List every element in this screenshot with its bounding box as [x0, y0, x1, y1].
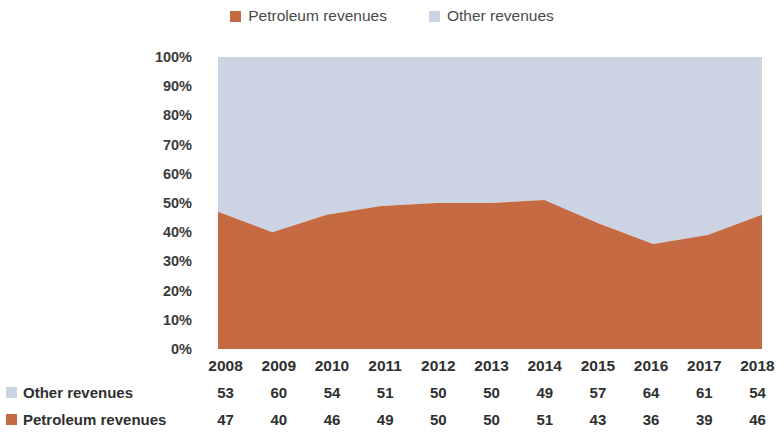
chart-data-table: 2008200920102011201220132014201520162017… — [0, 352, 784, 433]
table-row-label-petroleum: Petroleum revenues — [23, 412, 166, 427]
x-axis-tick-year: 2008 — [199, 352, 252, 379]
x-axis-tick-year: 2016 — [625, 352, 678, 379]
legend-entry-other: Other revenues — [429, 8, 554, 24]
table-cell-petroleum-value: 47 — [199, 406, 252, 433]
table-cell-other-value: 50 — [465, 379, 518, 406]
table-cell-petroleum-value: 49 — [359, 406, 412, 433]
x-axis-tick-year: 2013 — [465, 352, 518, 379]
table-cell-other-value: 51 — [359, 379, 412, 406]
legend-square-icon-other — [429, 11, 440, 22]
table-cell-petroleum-value: 43 — [571, 406, 624, 433]
table-row-years: 2008200920102011201220132014201520162017… — [0, 352, 784, 379]
table-cell-petroleum-value: 46 — [305, 406, 358, 433]
table-cell-other-value: 60 — [252, 379, 305, 406]
table-cell-other-value: 50 — [412, 379, 465, 406]
y-axis-tick: 50% — [96, 196, 192, 211]
chart-legend: Petroleum revenues Other revenues — [0, 2, 784, 30]
y-axis-tick: 90% — [96, 79, 192, 94]
x-axis-tick-year: 2009 — [252, 352, 305, 379]
table-cell-other-value: 54 — [731, 379, 784, 406]
y-axis-tick: 100% — [96, 50, 192, 65]
y-axis-tick: 40% — [96, 225, 192, 240]
table-cell-petroleum-value: 46 — [731, 406, 784, 433]
table-cell-other-value: 61 — [678, 379, 731, 406]
y-axis-tick: 80% — [96, 108, 192, 123]
table-row-header-other: Other revenues — [0, 379, 199, 406]
chart-plot-area — [218, 57, 762, 349]
x-axis-tick-year: 2015 — [571, 352, 624, 379]
table-cells-other: 5360545150504957646154 — [199, 379, 784, 406]
stacked-area-chart — [218, 57, 762, 349]
table-row-header-petroleum: Petroleum revenues — [0, 406, 199, 433]
y-axis-tick: 60% — [96, 167, 192, 182]
x-axis-tick-year: 2011 — [359, 352, 412, 379]
y-axis-tick: 70% — [96, 138, 192, 153]
table-row-label-other: Other revenues — [23, 385, 133, 400]
legend-square-icon-petroleum — [230, 11, 241, 22]
table-cell-other-value: 53 — [199, 379, 252, 406]
table-cell-other-value: 54 — [305, 379, 358, 406]
x-axis-tick-year: 2012 — [412, 352, 465, 379]
table-row-petroleum-revenues: Petroleum revenues 474046495050514336394… — [0, 406, 784, 433]
x-axis-tick-year: 2017 — [678, 352, 731, 379]
x-axis-tick-year: 2014 — [518, 352, 571, 379]
y-axis-tick: 10% — [96, 313, 192, 328]
y-axis-tick: 20% — [96, 284, 192, 299]
table-cell-petroleum-value: 39 — [678, 406, 731, 433]
legend-entry-petroleum: Petroleum revenues — [230, 8, 387, 24]
x-axis-tick-year: 2018 — [731, 352, 784, 379]
table-cell-other-value: 64 — [625, 379, 678, 406]
table-cell-petroleum-value: 40 — [252, 406, 305, 433]
table-row-other-revenues: Other revenues 5360545150504957646154 — [0, 379, 784, 406]
table-cell-petroleum-value: 51 — [518, 406, 571, 433]
table-cell-other-value: 49 — [518, 379, 571, 406]
table-cell-petroleum-value: 50 — [465, 406, 518, 433]
table-cell-petroleum-value: 36 — [625, 406, 678, 433]
table-row-header-years — [0, 352, 199, 379]
table-cells-petroleum: 4740464950505143363946 — [199, 406, 784, 433]
legend-label-petroleum: Petroleum revenues — [248, 8, 387, 24]
table-cell-petroleum-value: 50 — [412, 406, 465, 433]
legend-label-other: Other revenues — [447, 8, 554, 24]
x-axis-tick-year: 2010 — [305, 352, 358, 379]
legend-square-icon-petroleum-row — [6, 414, 17, 425]
table-cells-years: 2008200920102011201220132014201520162017… — [199, 352, 784, 379]
y-axis-tick: 30% — [96, 254, 192, 269]
legend-square-icon-other-row — [6, 387, 17, 398]
y-axis: 100%90%80%70%60%50%40%30%20%10%0% — [96, 48, 192, 358]
table-cell-other-value: 57 — [571, 379, 624, 406]
